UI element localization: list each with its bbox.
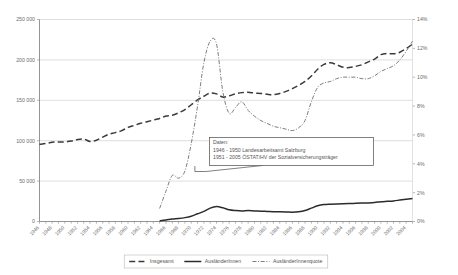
y-axis-tick-label: 150 000 bbox=[16, 97, 35, 103]
y-axis-tick-label: 50 000 bbox=[19, 178, 35, 184]
chart-container: 050 000100 000150 000200 000250 000 0%2%… bbox=[0, 0, 458, 275]
x-axis-tick-label: 1992 bbox=[319, 224, 331, 236]
x-axis-tick-label: 1948 bbox=[41, 224, 53, 236]
employment-line-chart: 050 000100 000150 000200 000250 000 0%2%… bbox=[0, 0, 458, 275]
y-axis-tick-label: 250 000 bbox=[16, 16, 35, 22]
x-axis-tick-label: 1986 bbox=[281, 224, 293, 236]
y2-axis-tick-label: 12% bbox=[417, 45, 428, 51]
x-axis-tick-label: 1998 bbox=[357, 224, 369, 236]
x-axis-tick-label: 1984 bbox=[268, 224, 280, 236]
series-line-insgesamt bbox=[40, 44, 413, 144]
series-line-auslaenderinnen bbox=[160, 198, 413, 220]
series-line-auslaenderinnenquote bbox=[160, 38, 413, 208]
chart-legend: InsgesamtAusländerInnenAusländerInnenquo… bbox=[124, 255, 328, 268]
x-axis-tick-label: 1988 bbox=[294, 224, 306, 236]
x-axis-tick-label: 2000 bbox=[369, 224, 381, 236]
legend-label: Insgesamt bbox=[150, 258, 174, 264]
y2-axis-tick-marks bbox=[413, 20, 416, 222]
y2-axis-tick-label: 4% bbox=[417, 161, 425, 167]
x-axis-tick-label: 1964 bbox=[142, 224, 154, 236]
x-axis-tick-label: 1968 bbox=[167, 224, 179, 236]
y2-axis-tick-label: 6% bbox=[417, 132, 425, 138]
y2-axis-tick-label: 2% bbox=[417, 190, 425, 196]
data-source-annotation: Daten: 1946 - 1950 Landesarbeitsamt Salz… bbox=[195, 138, 374, 172]
y2-axis-labels: 0%2%4%6%8%10%12%14% bbox=[417, 16, 428, 224]
legend-item-ausländerinnen[interactable]: AusländerInnen bbox=[184, 258, 241, 264]
legend-item-insgesamt[interactable]: Insgesamt bbox=[129, 258, 174, 264]
x-axis-tick-label: 1972 bbox=[192, 224, 204, 236]
x-axis-tick-label: 1950 bbox=[53, 224, 65, 236]
y-axis-tick-label: 0 bbox=[32, 218, 35, 224]
y-axis-labels: 050 000100 000150 000200 000250 000 bbox=[16, 16, 35, 224]
legend-label: AusländerInnen bbox=[205, 258, 241, 264]
legend-label: AusländerInnenquote bbox=[273, 258, 322, 264]
y2-axis-tick-label: 14% bbox=[417, 16, 428, 22]
y2-axis-tick-label: 8% bbox=[417, 103, 425, 109]
x-axis-tick-label: 1956 bbox=[91, 224, 103, 236]
annotation-callout-pointer bbox=[195, 166, 263, 172]
x-axis-tick-label: 1982 bbox=[256, 224, 268, 236]
annotation-line-2: 1951 - 2005 ÖSTAT/HV der Sozialversicher… bbox=[213, 154, 338, 160]
x-axis-tick-label: 1994 bbox=[332, 224, 344, 236]
annotation-line-1: 1946 - 1950 Landesarbeitsamt Salzburg bbox=[213, 147, 305, 153]
x-axis-tick-label: 1974 bbox=[205, 224, 217, 236]
x-axis-tick-label: 1958 bbox=[104, 224, 116, 236]
x-axis-tick-label: 1978 bbox=[230, 224, 242, 236]
x-axis-tick-label: 1976 bbox=[218, 224, 230, 236]
x-axis-tick-label: 1990 bbox=[306, 224, 318, 236]
x-axis-tick-label: 1966 bbox=[155, 224, 167, 236]
y-axis-tick-label: 200 000 bbox=[16, 57, 35, 63]
x-axis-tick-label: 1970 bbox=[180, 224, 192, 236]
y2-axis-tick-label: 10% bbox=[417, 74, 428, 80]
x-axis-tick-label: 1952 bbox=[66, 224, 78, 236]
legend-item-ausländerinnenquote[interactable]: AusländerInnenquote bbox=[252, 258, 322, 264]
x-axis-tick-label: 2002 bbox=[382, 224, 394, 236]
x-axis-tick-label: 1946 bbox=[28, 224, 40, 236]
x-axis-tick-label: 2004 bbox=[395, 224, 407, 236]
y-axis-tick-label: 100 000 bbox=[16, 138, 35, 144]
x-axis-tick-label: 1962 bbox=[129, 224, 141, 236]
x-axis-tick-label: 1960 bbox=[117, 224, 129, 236]
annotation-line-0: Daten: bbox=[213, 139, 228, 145]
x-axis-tick-label: 1996 bbox=[344, 224, 356, 236]
x-axis-tick-label: 1980 bbox=[243, 224, 255, 236]
y2-axis-tick-label: 0% bbox=[417, 218, 425, 224]
x-axis-tick-label: 1954 bbox=[79, 224, 91, 236]
x-axis-labels: 1946194819501952195419561958196019621964… bbox=[28, 224, 407, 236]
